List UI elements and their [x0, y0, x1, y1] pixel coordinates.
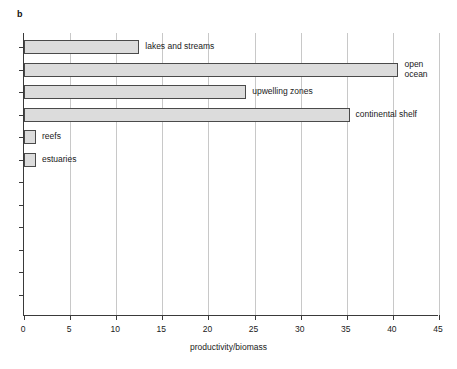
x-tick-label-10: 10 [110, 324, 119, 334]
bar-label-reefs: reefs [42, 132, 61, 142]
bar-label-upwelling-zones: upwelling zones [252, 87, 312, 97]
x-tick-label-35: 35 [341, 324, 350, 334]
x-tick-0 [24, 315, 25, 320]
x-tick-40 [393, 315, 394, 320]
bar-lakes-and-streams [24, 40, 139, 54]
x-tick-label-40: 40 [387, 324, 396, 334]
x-tick-5 [70, 315, 71, 320]
gridline-x-45 [439, 33, 440, 315]
x-tick-35 [347, 315, 348, 320]
x-tick-15 [162, 315, 163, 320]
figure-panel-b: b lakes and streamsopen oceanupwelling z… [0, 0, 457, 369]
bar-reefs [24, 130, 36, 144]
x-tick-label-15: 15 [157, 324, 166, 334]
x-tick-25 [255, 315, 256, 320]
x-tick-label-20: 20 [203, 324, 212, 334]
x-axis-title: productivity/biomass [0, 342, 457, 352]
bar-label-continental-shelf: continental shelf [356, 110, 417, 120]
bar-upwelling-zones [24, 85, 246, 99]
x-tick-label-30: 30 [295, 324, 304, 334]
x-tick-label-25: 25 [249, 324, 258, 334]
x-tick-20 [208, 315, 209, 320]
x-tick-label-5: 5 [67, 324, 72, 334]
bar-estuaries [24, 153, 36, 167]
x-tick-label-0: 0 [21, 324, 26, 334]
bar-label-open-ocean: open ocean [404, 60, 427, 79]
bar-open-ocean [24, 63, 398, 77]
plot-area: lakes and streamsopen oceanupwelling zon… [23, 33, 438, 316]
x-tick-label-45: 45 [433, 324, 442, 334]
x-tick-45 [439, 315, 440, 320]
bar-label-estuaries: estuaries [42, 155, 77, 165]
bars-group: lakes and streamsopen oceanupwelling zon… [24, 33, 438, 315]
bar-continental-shelf [24, 108, 350, 122]
panel-letter-label: b [17, 9, 23, 19]
bar-label-lakes-and-streams: lakes and streams [145, 42, 214, 52]
x-tick-30 [301, 315, 302, 320]
x-tick-10 [116, 315, 117, 320]
